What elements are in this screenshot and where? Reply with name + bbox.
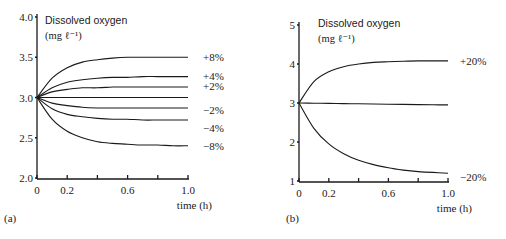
figure: 2.02.53.03.54.000.20.61.0Dissolved oxyge… — [0, 0, 506, 239]
y-tick-label: 3 — [290, 97, 296, 109]
x-tick-label: 0 — [296, 187, 302, 199]
series-label: +20% — [460, 55, 486, 67]
y-tick-label: 2 — [290, 136, 296, 148]
y-axis-unit: (mg ℓ⁻¹) — [45, 30, 82, 42]
y-axis-title: Dissolved oxygen — [318, 17, 400, 29]
y-axis-unit: (mg ℓ⁻¹) — [318, 33, 355, 45]
series-line — [299, 61, 448, 103]
series-label: +2% — [203, 80, 224, 92]
x-tick-label: 0.6 — [121, 184, 135, 196]
series-label: −20% — [460, 171, 486, 183]
series-line — [37, 98, 188, 121]
panel-label: (b) — [286, 212, 299, 225]
chart-panel-a: 2.02.53.03.54.000.20.61.0Dissolved oxyge… — [4, 11, 224, 225]
series-label: +8% — [203, 51, 224, 63]
x-tick-label: 0.6 — [382, 187, 396, 199]
series-line — [37, 98, 188, 109]
y-tick-label: 3.5 — [19, 51, 33, 63]
y-axis-title: Dissolved oxygen — [45, 14, 127, 26]
y-tick-label: 4.0 — [19, 11, 33, 23]
x-axis-title: time (h) — [177, 199, 212, 212]
series-label: −2% — [203, 104, 224, 116]
y-tick-label: 3.0 — [19, 92, 33, 104]
x-tick-label: 1.0 — [441, 187, 455, 199]
chart-panel-b: 1234500.20.61.0Dissolved oxygen(mg ℓ⁻¹)t… — [286, 17, 486, 225]
x-tick-label: 0 — [34, 184, 40, 196]
series-line — [299, 103, 448, 105]
x-tick-label: 0.2 — [322, 187, 336, 199]
y-tick-label: 4 — [290, 58, 296, 70]
y-tick-label: 2.0 — [19, 172, 33, 184]
series-label: −4% — [203, 122, 224, 134]
y-tick-label: 1 — [290, 175, 296, 187]
series-line — [299, 103, 448, 173]
panel-label: (a) — [4, 212, 17, 225]
series-line — [37, 87, 188, 98]
y-tick-label: 2.5 — [19, 132, 33, 144]
x-axis-title: time (h) — [437, 202, 472, 215]
y-tick-label: 5 — [290, 19, 296, 31]
x-tick-label: 0.2 — [60, 184, 74, 196]
series-label: −8% — [203, 140, 224, 152]
x-tick-label: 1.0 — [181, 184, 195, 196]
